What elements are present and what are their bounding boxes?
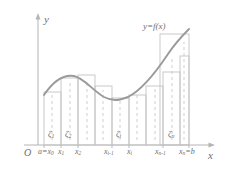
x-tick-label-x2: x2 (75, 148, 81, 157)
sample-point-label-zeta1: ζ1 (48, 130, 54, 140)
zeta-subscript: 2 (68, 133, 71, 139)
riemann-rectangle (160, 34, 189, 145)
x-tick-label-xi: xi (127, 148, 132, 157)
function-curve (44, 29, 189, 100)
zeta-subscript: 1 (51, 133, 54, 139)
curve-label: y=f(x) (143, 22, 166, 31)
x-tick-label-x1: x1 (58, 148, 64, 157)
sample-point-label-zetai: ζi (116, 130, 121, 140)
x-tick-subscript: 2 (79, 150, 82, 156)
riemann-rectangle (78, 75, 95, 145)
y-axis-label: y (44, 14, 49, 25)
x-tick-tail: =b (185, 147, 194, 156)
x-tick-text: a=x (38, 147, 51, 156)
sample-point-label-zeta2: ζ2 (65, 130, 71, 140)
riemann-rectangle (95, 86, 112, 145)
sample-point-dashed-lines (52, 42, 184, 140)
y-axis (36, 13, 41, 145)
x-tick-subscript: 0 (51, 150, 54, 156)
x-tick-label-xn-1: xn-1 (155, 148, 166, 157)
riemann-rectangle (129, 95, 146, 145)
x-axis-label: x (208, 150, 213, 161)
riemann-sum-figure: y x O y=f(x) a=x0 x1 x2 xi-1 xi xn-1 xn=… (0, 0, 226, 174)
x-tick-subscript: i (131, 150, 133, 156)
x-tick-subscript: i-1 (108, 150, 114, 156)
zeta-subscript: i (119, 133, 121, 139)
x-tick-subscript: n-1 (159, 150, 166, 156)
y-axis-arrowhead (36, 13, 41, 20)
origin-label: O (24, 148, 31, 158)
x-tick-label-a: a=x0 (38, 148, 54, 157)
x-axis-arrowhead (209, 143, 216, 148)
x-tick-label-xn: xn=b (179, 148, 195, 157)
x-tick-subscript: 1 (62, 150, 65, 156)
riemann-rectangle (180, 56, 189, 145)
zeta-subscript: n (171, 133, 174, 139)
x-tick-label-xi-1: xi-1 (104, 148, 114, 157)
sample-point-label-zetan: ζn (168, 130, 174, 140)
